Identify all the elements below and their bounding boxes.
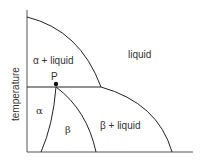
y-axis-label: temperature bbox=[10, 67, 21, 121]
beta-boundary-curve bbox=[56, 87, 96, 152]
region-beta-liquid-label: β + liquid bbox=[100, 120, 141, 131]
alpha-boundary-curve bbox=[41, 87, 56, 152]
point-p-marker bbox=[54, 82, 58, 86]
phase-diagram: P α + liquid liquid α β β + liquid tempe… bbox=[0, 0, 200, 162]
region-alpha-label: α bbox=[36, 105, 43, 116]
region-beta-label: β bbox=[65, 124, 71, 135]
point-p-label: P bbox=[51, 71, 58, 82]
alpha-liquidus-curve bbox=[27, 17, 101, 87]
region-alpha-liquid-label: α + liquid bbox=[33, 55, 74, 66]
region-liquid-label: liquid bbox=[128, 49, 151, 60]
